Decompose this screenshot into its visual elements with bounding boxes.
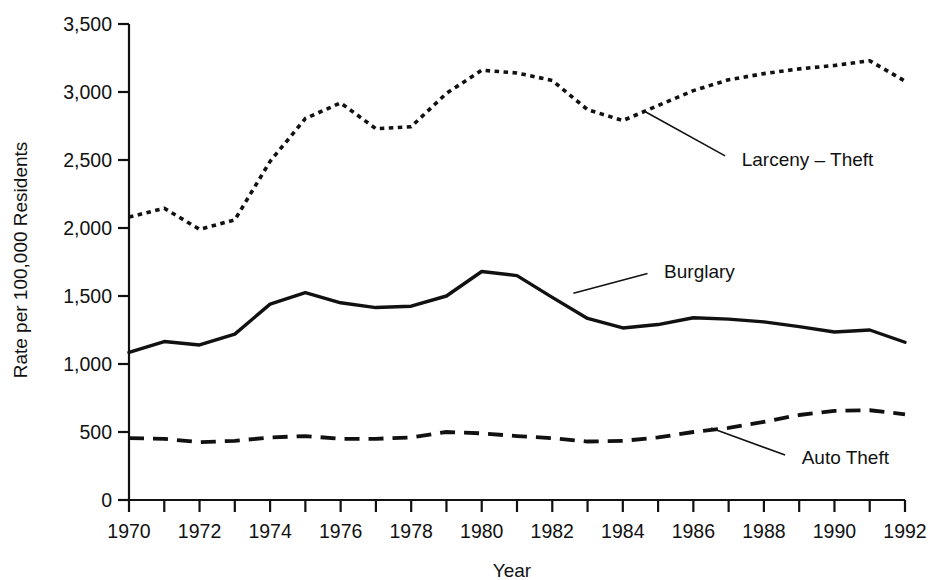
y-axis-ticks: 05001,0001,5002,0002,5003,0003,500 bbox=[63, 13, 129, 511]
x-tick-label: 1974 bbox=[248, 520, 292, 542]
chart-canvas: 05001,0001,5002,0002,5003,0003,500 19701… bbox=[0, 0, 935, 580]
series-annotations: Larceny – TheftBurglaryAuto Theft bbox=[573, 111, 889, 468]
data-series bbox=[129, 61, 905, 442]
y-tick-label: 3,000 bbox=[63, 81, 112, 103]
series-annotation-label: Burglary bbox=[664, 261, 735, 282]
y-tick-label: 0 bbox=[101, 489, 112, 511]
x-tick-label: 1984 bbox=[601, 520, 645, 542]
series-annotation-label: Auto Theft bbox=[802, 447, 890, 468]
axes bbox=[129, 24, 905, 500]
annotation-leader-line bbox=[573, 274, 647, 294]
x-tick-label: 1990 bbox=[813, 520, 857, 542]
annotation-leader-line bbox=[711, 428, 785, 455]
series-annotation-label: Larceny – Theft bbox=[742, 149, 874, 170]
x-tick-label: 1988 bbox=[742, 520, 785, 542]
x-tick-label: 1986 bbox=[672, 520, 715, 542]
y-tick-label: 1,500 bbox=[63, 285, 112, 307]
x-axis-title: Year bbox=[493, 560, 532, 580]
y-axis-title: Rate per 100,000 Residents bbox=[10, 142, 31, 379]
x-tick-label: 1982 bbox=[531, 520, 574, 542]
y-tick-label: 2,000 bbox=[63, 217, 112, 239]
x-tick-label: 1978 bbox=[389, 520, 432, 542]
x-tick-label: 1970 bbox=[107, 520, 151, 542]
x-axis-ticks: 1970197219741976197819801982198419861988… bbox=[107, 500, 926, 542]
x-tick-label: 1992 bbox=[883, 520, 926, 542]
x-tick-label: 1980 bbox=[460, 520, 504, 542]
y-tick-label: 500 bbox=[79, 421, 112, 443]
series-line bbox=[129, 272, 905, 353]
x-tick-label: 1976 bbox=[319, 520, 362, 542]
y-tick-label: 2,500 bbox=[63, 149, 112, 171]
x-tick-label: 1972 bbox=[178, 520, 221, 542]
series-line bbox=[129, 410, 905, 442]
series-line bbox=[129, 61, 905, 230]
y-tick-label: 1,000 bbox=[63, 353, 112, 375]
y-tick-label: 3,500 bbox=[63, 13, 112, 35]
crime-rate-line-chart: 05001,0001,5002,0002,5003,0003,500 19701… bbox=[0, 0, 935, 580]
annotation-leader-line bbox=[644, 111, 725, 156]
